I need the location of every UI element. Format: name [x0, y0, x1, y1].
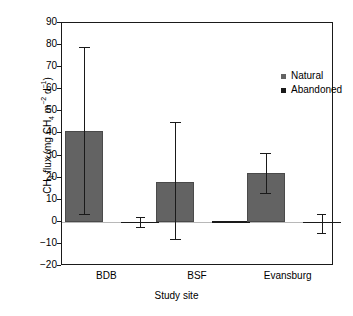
y-tick-label: 50 — [23, 105, 57, 115]
y-tick-label: 30 — [23, 150, 57, 160]
error-bar-natural-bdb-cap-lower — [79, 214, 90, 215]
error-bar-natural-bsf — [175, 122, 176, 239]
y-tick-label: 60 — [23, 83, 57, 93]
y-tick-label: 10 — [23, 194, 57, 204]
legend-label-natural: Natural — [291, 71, 323, 81]
error-bar-abandoned-bsf-cap-lower — [227, 222, 236, 223]
x-tick-label-evansburg: Evansburg — [264, 270, 312, 281]
chart-figure: CH4 flux (mg CH4 m−2 d−1) 90807060504030… — [0, 0, 353, 316]
y-tick-label: 40 — [23, 127, 57, 137]
error-bar-abandoned-evansburg-cap-lower — [317, 233, 326, 234]
error-bar-abandoned-evansburg — [322, 214, 323, 233]
error-bar-natural-evansburg-cap-upper — [260, 153, 271, 154]
chart-legend: NaturalAbandoned — [281, 69, 342, 97]
plot-area: NaturalAbandoned — [61, 22, 333, 265]
y-axis-label-part5: ) — [42, 77, 53, 80]
legend-swatch-icon-abandoned — [281, 88, 286, 93]
legend-item-abandoned: Abandoned — [281, 83, 342, 97]
y-tick-label: −10 — [23, 238, 57, 248]
error-bar-natural-bdb — [84, 47, 85, 214]
error-bar-natural-bsf-cap-lower — [170, 239, 181, 240]
x-tick-label-bdb: BDB — [96, 270, 117, 281]
error-bar-abandoned-bdb — [140, 217, 141, 227]
y-tick-label: 90 — [23, 17, 57, 27]
y-tick-label: 20 — [23, 172, 57, 182]
y-tick-label: −20 — [23, 260, 57, 270]
y-axis-label-sub2: 4 — [48, 116, 55, 120]
error-bar-abandoned-bdb-cap-lower — [136, 227, 145, 228]
error-bar-abandoned-bdb-cap-upper — [136, 217, 145, 218]
legend-swatch-icon-natural — [281, 74, 286, 79]
error-bar-natural-bdb-cap-upper — [79, 47, 90, 48]
legend-item-natural: Natural — [281, 69, 342, 83]
x-axis-label: Study site — [0, 290, 353, 301]
legend-label-abandoned: Abandoned — [291, 85, 342, 95]
y-tick-label: 80 — [23, 39, 57, 49]
y-tick-label: 0 — [23, 216, 57, 226]
error-bar-abandoned-evansburg-cap-upper — [317, 214, 326, 215]
zero-line — [62, 222, 332, 223]
y-tick-label: 70 — [23, 61, 57, 71]
x-tick-label-bsf: BSF — [187, 270, 206, 281]
y-tick-mark — [57, 265, 61, 266]
error-bar-natural-evansburg-cap-lower — [260, 193, 271, 194]
error-bar-natural-evansburg — [266, 153, 267, 193]
error-bar-natural-bsf-cap-upper — [170, 122, 181, 123]
